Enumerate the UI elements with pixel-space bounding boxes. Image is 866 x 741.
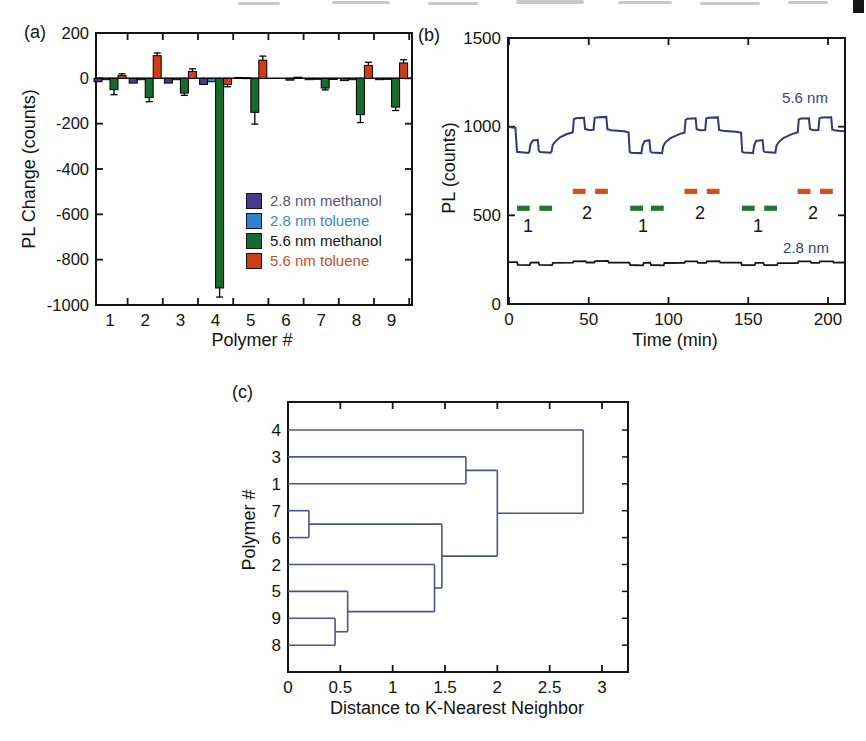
panel-c-leaf-label: 4	[272, 421, 281, 440]
panel-c-x-tick-label: 1	[388, 678, 397, 697]
bar	[251, 78, 259, 112]
bar	[392, 78, 400, 107]
bar	[200, 78, 208, 84]
panel-c-x-tick-label: 0	[283, 678, 292, 697]
panel-c-leaf-label: 6	[272, 529, 281, 548]
toluene-pulse-marker	[573, 189, 586, 194]
bar	[286, 78, 294, 80]
panel-b-x-tick-label: 150	[734, 310, 762, 329]
panel-c-x-tick-label: 1.5	[433, 678, 457, 697]
bar	[118, 76, 126, 79]
bar	[172, 78, 180, 79]
toluene-pulse-marker	[820, 189, 833, 194]
bar	[164, 78, 172, 83]
figure-canvas: 1234567892000-200-400-600-800-1000050100…	[0, 0, 866, 741]
bar	[145, 78, 153, 97]
trace-label-5-6nm: 5.6 nm	[782, 89, 828, 106]
figure-plots: 1234567892000-200-400-600-800-1000050100…	[0, 0, 866, 741]
panel-c-tag: (c)	[232, 382, 253, 403]
bar	[129, 78, 137, 83]
bar	[235, 77, 243, 78]
panel-a-y-tick-label: -800	[56, 250, 89, 268]
bar	[208, 78, 216, 81]
panel-b-tag: (b)	[418, 25, 440, 46]
legend: 2.8 nm methanol 2.8 nm toluene 5.6 nm me…	[246, 191, 382, 271]
methanol-pulse-marker	[742, 206, 755, 211]
panel-c-x-tick-label: 2	[493, 678, 502, 697]
panel-b-y-tick-label: 500	[473, 206, 501, 225]
panel-a-y-tick-label: -1000	[47, 296, 89, 314]
methanol-pulse-marker	[764, 206, 777, 211]
trace-2.8nm	[509, 261, 844, 265]
panel-b-y-tick-label: 1000	[463, 117, 501, 136]
panel-a-x-tick-label: 3	[176, 311, 185, 330]
panel-c-x-tick-label: 2.5	[538, 678, 562, 697]
bar	[364, 65, 372, 78]
panel-a-y-tick-label: -200	[56, 114, 89, 132]
bar	[180, 78, 188, 93]
panel-c-leaf-label: 7	[272, 502, 281, 521]
methanol-pulse-marker	[651, 206, 664, 211]
panel-b-x-tick-label: 200	[814, 310, 842, 329]
bar	[243, 78, 251, 79]
pulse-label-2: 2	[695, 203, 705, 223]
bar	[153, 56, 161, 79]
bar	[294, 77, 302, 78]
panel-c-leaf-label: 3	[272, 448, 281, 467]
panel-c-leaf-label: 5	[272, 582, 281, 601]
panel-c-leaf-label: 9	[272, 609, 281, 628]
pulse-label-1: 1	[638, 216, 648, 236]
panel-a-x-tick-label: 8	[352, 311, 361, 330]
bar	[110, 78, 118, 89]
legend-swatch-2-8nm-methanol	[246, 193, 262, 209]
panel-c-y-axis-title: Polymer #	[239, 489, 260, 570]
panel-a-x-tick-label: 4	[211, 311, 220, 330]
panel-b-x-axis-title: Time (min)	[632, 330, 717, 351]
pulse-label-1: 1	[523, 216, 533, 236]
legend-label: 2.8 nm toluene	[270, 213, 369, 228]
toluene-pulse-marker	[595, 189, 608, 194]
panel-a-x-tick-label: 2	[140, 311, 149, 330]
panel-a-x-tick-label: 7	[316, 311, 325, 330]
panel-b-x-tick-label: 50	[579, 310, 598, 329]
panel-a-x-tick-label: 5	[246, 311, 255, 330]
panel-a-y-axis-title: PL Change (counts)	[19, 89, 40, 248]
bar	[102, 78, 110, 79]
panel-c-leaf-label: 2	[272, 556, 281, 575]
bar	[329, 78, 337, 79]
bar	[384, 78, 392, 79]
panel-b-y-tick-label: 0	[492, 295, 501, 314]
panel-a-x-tick-label: 6	[281, 311, 290, 330]
methanol-pulse-marker	[539, 206, 552, 211]
trace-5.6nm	[509, 117, 844, 153]
legend-row: 5.6 nm toluene	[246, 251, 382, 270]
methanol-pulse-marker	[630, 206, 643, 211]
legend-label: 5.6 nm toluene	[270, 253, 369, 268]
toluene-pulse-marker	[707, 189, 720, 194]
bar	[321, 78, 329, 88]
panel-c-leaf-label: 8	[272, 636, 281, 655]
pulse-label-1: 1	[753, 216, 763, 236]
panel-a-y-tick-label: -400	[56, 160, 89, 178]
bar	[305, 78, 313, 79]
pulse-label-2: 2	[808, 203, 818, 223]
panel-c-x-axis-title: Distance to K-Nearest Neighbor	[330, 698, 584, 719]
panel-b-frame	[508, 38, 845, 304]
bar	[224, 78, 232, 84]
bar	[376, 78, 384, 79]
bar	[400, 63, 408, 78]
panel-b-x-tick-label: 100	[654, 310, 682, 329]
legend-swatch-5-6nm-toluene	[246, 253, 262, 269]
bar	[340, 78, 348, 80]
bar	[356, 78, 364, 114]
bar	[259, 60, 267, 78]
legend-label: 5.6 nm methanol	[270, 233, 382, 248]
legend-swatch-2-8nm-toluene	[246, 213, 262, 229]
legend-swatch-5-6nm-methanol	[246, 233, 262, 249]
panel-a-x-axis-title: Polymer #	[211, 330, 292, 351]
pulse-label-2: 2	[582, 203, 592, 223]
bar	[137, 78, 145, 79]
legend-row: 2.8 nm toluene	[246, 211, 382, 230]
trace-label-2-8nm: 2.8 nm	[783, 239, 829, 256]
panel-a-y-tick-label: -600	[56, 205, 89, 223]
